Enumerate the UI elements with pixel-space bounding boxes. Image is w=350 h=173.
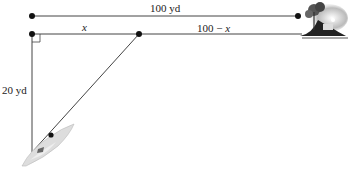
segment-remaining-label: 100 − x xyxy=(197,22,230,34)
boat-icon xyxy=(22,124,74,166)
island-house-icon xyxy=(300,2,348,38)
diagram-canvas xyxy=(0,0,350,173)
vertical-distance-label: 20 yd xyxy=(2,84,27,96)
landing-dot xyxy=(136,31,142,37)
diagonal-path-line xyxy=(34,34,139,150)
corner-dot xyxy=(29,31,35,37)
segment-x-label: x xyxy=(82,21,87,33)
top-right-dot xyxy=(295,13,301,19)
total-distance-label: 100 yd xyxy=(150,2,180,14)
top-left-dot xyxy=(29,13,35,19)
